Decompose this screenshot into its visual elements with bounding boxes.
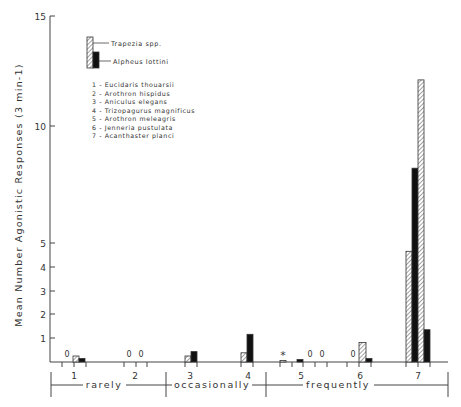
legend-label-alpheus: Alpheus lottini [113, 58, 169, 66]
legend-swatch-trapezia [87, 37, 93, 68]
legend-swatch-alpheus [93, 52, 99, 68]
bars [73, 80, 430, 362]
group-label-rarely: rarely [86, 379, 123, 390]
zero-label: 0 [319, 350, 324, 359]
bar-7-alpheus-a [412, 168, 418, 362]
bar-1-alpheus [79, 359, 85, 363]
asterisk-label: * [280, 349, 286, 362]
zero-label: 0 [350, 350, 355, 359]
species-key: 1 - Eucidaris thouarsii 2 - Arothron his… [92, 81, 195, 140]
bar-1-trapezia [73, 356, 79, 362]
bar-5-alpheus [297, 360, 303, 363]
group-label-frequently: frequently [306, 379, 370, 390]
bar-7-trapezia-a [406, 251, 412, 362]
y-tick-2: 2 [40, 310, 46, 320]
annotations: 0 0 0 * 0 0 0 [64, 349, 355, 362]
key-item-4: 4 - Trizopagurus magnificus [92, 107, 195, 115]
y-tick-3: 3 [40, 287, 46, 297]
y-tick-10: 10 [35, 122, 47, 132]
bar-7-alpheus-b [424, 330, 430, 362]
key-item-6: 6 - Jenneria pustulata [92, 124, 173, 132]
zero-label: 0 [138, 350, 143, 359]
y-tick-5: 5 [40, 239, 46, 249]
y-axis-label: Mean Number Agonistic Responses (3 min-1… [13, 63, 24, 326]
legend-label-trapezia: Trapezia spp. [110, 40, 162, 48]
key-item-3: 3 - Aniculus elegans [92, 98, 167, 106]
y-tick-4: 4 [40, 263, 46, 273]
legend: Trapezia spp. Alpheus lottini [87, 37, 169, 68]
bar-4-alpheus [247, 334, 253, 362]
zero-label: 0 [64, 350, 69, 359]
key-item-1: 1 - Eucidaris thouarsii [92, 81, 174, 88]
bar-3-trapezia [185, 356, 191, 362]
zero-label: 0 [126, 350, 131, 359]
key-item-7: 7 - Acanthaster planci [92, 132, 174, 140]
key-item-2: 2 - Arothron hispidus [92, 90, 170, 98]
category-label-5: 5 [298, 371, 304, 381]
category-label-2: 2 [132, 371, 138, 381]
bar-6-trapezia [359, 342, 366, 362]
bar-6-alpheus [366, 359, 372, 363]
bar-3-alpheus [191, 352, 197, 362]
key-item-5: 5 - Arothron meleagris [92, 115, 176, 123]
bar-7-trapezia-b [418, 80, 424, 362]
y-axis: 15 10 5 4 3 2 1 Mean Number Agonistic Re… [13, 12, 55, 362]
bar-chart: 15 10 5 4 3 2 1 Mean Number Agonistic Re… [0, 0, 461, 407]
group-label-occasionally: occasionally [174, 379, 250, 390]
y-tick-15: 15 [35, 12, 46, 22]
y-tick-1: 1 [40, 334, 46, 344]
bar-4-trapezia [241, 353, 247, 362]
category-label-7: 7 [415, 371, 421, 381]
zero-label: 0 [307, 350, 312, 359]
category-label-1: 1 [71, 371, 77, 381]
